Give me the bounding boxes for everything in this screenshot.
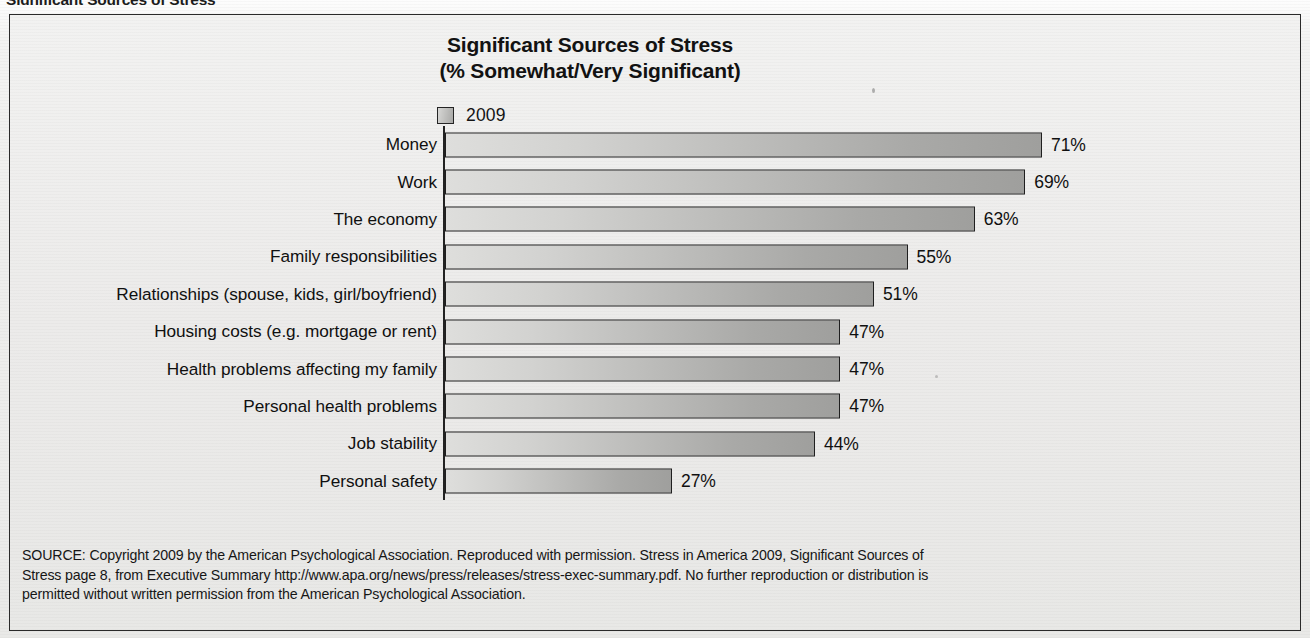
plot-area: Money71%Work69%The economy63%Family resp… (0, 126, 1292, 516)
bar-2009 (445, 319, 840, 344)
bar-row: Housing costs (e.g. mortgage or rent)47% (0, 313, 1292, 350)
bar-value-label: 44% (824, 433, 859, 454)
bar-with-value: 71% (445, 132, 1086, 157)
category-label: Family responsibilities (0, 246, 437, 267)
bar-value-label: 55% (917, 246, 952, 267)
bar-row: Personal safety27% (0, 463, 1292, 500)
chart-title-line2: (% Somewhat/Very Significant) (210, 58, 970, 84)
bar-row: Family responsibilities55% (0, 238, 1292, 275)
bar-row: Health problems affecting my family47% (0, 350, 1292, 387)
bar-row: Work69% (0, 163, 1292, 200)
chart-legend: 2009 (437, 105, 506, 126)
bar-row: Job stability44% (0, 425, 1292, 462)
bar-2009 (445, 244, 908, 269)
legend-label-2009: 2009 (466, 105, 506, 126)
bar-with-value: 47% (445, 394, 884, 419)
bar-2009 (445, 469, 672, 494)
category-label: Job stability (0, 433, 437, 454)
bar-value-label: 47% (849, 321, 884, 342)
bar-2009 (445, 170, 1025, 195)
source-note: SOURCE: Copyright 2009 by the American P… (22, 546, 1272, 605)
scan-speck (935, 375, 938, 378)
bar-value-label: 69% (1034, 172, 1069, 193)
source-note-line3: permitted without written permission fro… (22, 585, 1272, 605)
category-label: Work (0, 172, 437, 193)
category-label: Personal safety (0, 471, 437, 492)
category-label: Relationships (spouse, kids, girl/boyfri… (0, 284, 437, 305)
bar-value-label: 63% (984, 209, 1019, 230)
bar-2009 (445, 357, 840, 382)
bar-2009 (445, 282, 874, 307)
bar-value-label: 27% (681, 471, 716, 492)
bar-with-value: 47% (445, 319, 884, 344)
legend-swatch-2009-icon (437, 107, 454, 124)
bar-row: Relationships (spouse, kids, girl/boyfri… (0, 276, 1292, 313)
category-label: Housing costs (e.g. mortgage or rent) (0, 321, 437, 342)
bar-row: The economy63% (0, 201, 1292, 238)
bar-2009 (445, 431, 815, 456)
bar-value-label: 47% (849, 359, 884, 380)
bar-row: Personal health problems47% (0, 388, 1292, 425)
bar-with-value: 44% (445, 431, 859, 456)
source-note-line1: SOURCE: Copyright 2009 by the American P… (22, 546, 1272, 566)
bar-with-value: 47% (445, 357, 884, 382)
bar-with-value: 51% (445, 282, 918, 307)
category-label: The economy (0, 209, 437, 230)
bar-2009 (445, 207, 975, 232)
bar-with-value: 63% (445, 207, 1019, 232)
bar-with-value: 27% (445, 469, 716, 494)
category-label: Health problems affecting my family (0, 359, 437, 380)
bar-2009 (445, 394, 840, 419)
scan-speck (872, 88, 875, 93)
page-header: Significant Sources of Stress (6, 0, 216, 5)
bar-value-label: 71% (1051, 134, 1086, 155)
bar-with-value: 55% (445, 244, 951, 269)
chart-title-line1: Significant Sources of Stress (447, 33, 733, 56)
chart-title: Significant Sources of Stress (% Somewha… (210, 32, 970, 84)
category-label: Personal health problems (0, 396, 437, 417)
bar-value-label: 51% (883, 284, 918, 305)
bar-2009 (445, 132, 1042, 157)
bar-value-label: 47% (849, 396, 884, 417)
bar-row: Money71% (0, 126, 1292, 163)
source-note-line2: Stress page 8, from Executive Summary ht… (22, 566, 1272, 586)
bar-with-value: 69% (445, 170, 1069, 195)
category-label: Money (0, 134, 437, 155)
